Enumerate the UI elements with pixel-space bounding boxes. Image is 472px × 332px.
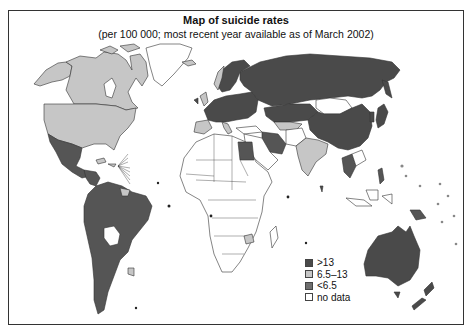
region-new-zealand: [424, 282, 434, 296]
legend-label-low: <6.5: [317, 280, 337, 291]
legend-swatch-high: [305, 259, 313, 267]
region-uk: [200, 92, 208, 106]
region-russia: [240, 54, 400, 106]
legend-label-nodata: no data: [317, 292, 350, 303]
legend-swatch-nodata: [305, 293, 313, 301]
legend-item-high: >13: [305, 257, 350, 269]
region-canada: [66, 52, 148, 110]
region-iberia: [194, 120, 212, 134]
region-zimbabwe: [244, 234, 254, 244]
region-australia: [364, 226, 420, 286]
region-greenland: [146, 44, 192, 86]
legend-label-high: >13: [317, 257, 334, 268]
region-central-america: [84, 170, 100, 186]
world-map: [0, 0, 472, 332]
map-legend: >13 6.5–13 <6.5 no data: [305, 257, 350, 303]
region-india: [296, 138, 328, 176]
legend-item-mid: 6.5–13: [305, 269, 350, 281]
region-alaska: [34, 62, 72, 86]
legend-swatch-low: [305, 282, 313, 290]
region-south-america: [84, 182, 152, 314]
region-egypt: [238, 142, 254, 160]
region-uruguay: [128, 268, 134, 276]
region-png: [410, 210, 426, 220]
legend-label-mid: 6.5–13: [317, 269, 348, 280]
region-philippines: [378, 168, 384, 184]
legend-swatch-mid: [305, 270, 313, 278]
legend-item-low: <6.5: [305, 280, 350, 292]
region-japan: [376, 104, 388, 128]
region-europe: [204, 92, 258, 122]
legend-item-nodata: no data: [305, 292, 350, 304]
region-guyana: [120, 188, 130, 196]
